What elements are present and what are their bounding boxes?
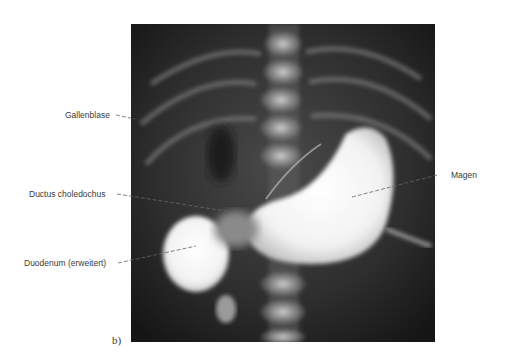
- label-ductus-choledochus: Ductus choledochus: [29, 189, 106, 199]
- figure: Gallenblase Ductus choledochus Duodenum …: [0, 0, 511, 364]
- label-duodenum: Duodenum (erweitert): [24, 258, 106, 268]
- xray-image: [131, 24, 435, 342]
- label-gallenblase: Gallenblase: [65, 110, 110, 120]
- panel-label: b): [112, 334, 121, 346]
- label-magen: Magen: [451, 170, 477, 180]
